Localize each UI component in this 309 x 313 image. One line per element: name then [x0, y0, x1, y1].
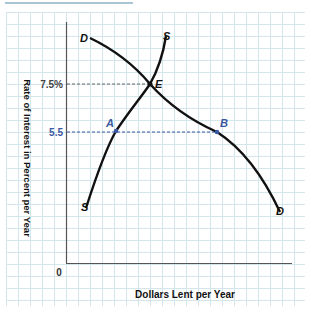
label-s-bottom: S — [81, 201, 89, 213]
y-axis-label: Rate of Interest in Percent per Year — [22, 79, 33, 237]
loanable-funds-chart: D S E A B S D 7.5% 5.5 0 Dollars Lent pe… — [0, 0, 309, 313]
point-a — [114, 129, 119, 134]
origin-label: 0 — [56, 267, 62, 278]
label-e: E — [155, 78, 163, 90]
grid — [6, 12, 305, 306]
point-b — [215, 130, 220, 135]
point-e — [148, 82, 153, 87]
tick-7-5: 7.5% — [40, 79, 63, 90]
label-b: B — [220, 117, 228, 129]
label-s-top: S — [163, 30, 171, 42]
tick-5-5: 5.5 — [49, 127, 63, 138]
label-d-bottom: D — [276, 205, 284, 217]
label-d-top: D — [80, 32, 88, 44]
demand-curve — [90, 38, 280, 212]
x-axis-label: Dollars Lent per Year — [135, 289, 235, 300]
label-a: A — [105, 117, 114, 129]
